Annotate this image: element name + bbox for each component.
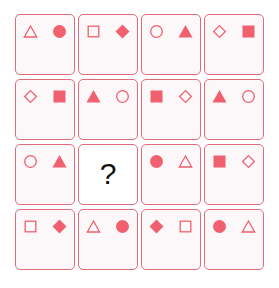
diamond-filled-icon xyxy=(53,220,66,233)
question-cell[interactable]: ? xyxy=(78,144,138,205)
puzzle-cell-r1-c4 xyxy=(204,14,264,75)
square-filled-icon xyxy=(53,90,66,103)
diamond-filled-icon xyxy=(150,220,163,233)
triangle-outline-icon xyxy=(179,155,192,168)
diamond-outline-icon xyxy=(242,155,255,168)
circle-outline-icon xyxy=(116,90,129,103)
puzzle-cell-r2-c4 xyxy=(204,79,264,140)
puzzle-cell-r2-c3 xyxy=(141,79,201,140)
square-outline-icon xyxy=(24,220,37,233)
circle-outline-icon xyxy=(24,155,37,168)
diamond-outline-icon xyxy=(24,90,37,103)
triangle-outline-icon xyxy=(242,220,255,233)
puzzle-cell-r4-c3 xyxy=(141,209,201,270)
triangle-outline-icon xyxy=(87,220,100,233)
circle-filled-icon xyxy=(53,25,66,38)
puzzle-cell-r1-c2 xyxy=(78,14,138,75)
puzzle-cell-r2-c1 xyxy=(15,79,75,140)
circle-filled-icon xyxy=(213,220,226,233)
diamond-outline-icon xyxy=(213,25,226,38)
triangle-filled-icon xyxy=(179,25,192,38)
puzzle-cell-r3-c3 xyxy=(141,144,201,205)
square-outline-icon xyxy=(87,25,100,38)
triangle-filled-icon xyxy=(213,90,226,103)
triangle-filled-icon xyxy=(53,155,66,168)
puzzle-cell-r4-c4 xyxy=(204,209,264,270)
puzzle-cell-r3-c4 xyxy=(204,144,264,205)
circle-filled-icon xyxy=(150,155,163,168)
diamond-outline-icon xyxy=(179,90,192,103)
puzzle-cell-r1-c3 xyxy=(141,14,201,75)
puzzle-grid: ? xyxy=(15,14,264,272)
puzzle-cell-r2-c2 xyxy=(78,79,138,140)
puzzle-cell-r3-c1 xyxy=(15,144,75,205)
circle-outline-icon xyxy=(150,25,163,38)
puzzle-cell-r1-c1 xyxy=(15,14,75,75)
puzzle-cell-r4-c2 xyxy=(78,209,138,270)
puzzle-cell-r4-c1 xyxy=(15,209,75,270)
circle-outline-icon xyxy=(242,90,255,103)
square-filled-icon xyxy=(242,25,255,38)
square-filled-icon xyxy=(150,90,163,103)
diamond-filled-icon xyxy=(116,25,129,38)
square-outline-icon xyxy=(179,220,192,233)
triangle-filled-icon xyxy=(87,90,100,103)
square-filled-icon xyxy=(213,155,226,168)
circle-filled-icon xyxy=(116,220,129,233)
triangle-outline-icon xyxy=(24,25,37,38)
question-mark: ? xyxy=(79,159,137,189)
